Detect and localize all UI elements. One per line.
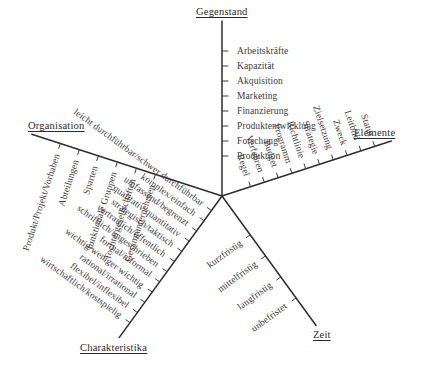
tick-elemente-7	[346, 151, 348, 156]
tick-elemente-6	[332, 155, 334, 160]
tick-elemente-2	[277, 173, 279, 178]
tick-charakteristika-0	[207, 208, 211, 211]
tick-elemente-5	[318, 160, 320, 165]
tick-zeit-2	[277, 277, 281, 280]
axis-item-gegenstand-4: Marketing	[237, 91, 277, 101]
axis-line-zeit	[222, 196, 316, 325]
tick-charakteristika-8	[148, 289, 152, 292]
tick-zeit-0	[246, 235, 250, 238]
axis-title-zeit: Zeit	[313, 329, 331, 340]
tick-organisation-2	[116, 162, 118, 167]
tick-organisation-5	[59, 143, 61, 148]
tick-elemente-3	[290, 169, 292, 174]
tick-charakteristika-1	[200, 218, 204, 221]
tick-charakteristika-10	[133, 310, 137, 313]
tick-organisation-4	[78, 150, 80, 155]
tick-charakteristika-7	[156, 279, 160, 282]
tick-charakteristika-4	[178, 248, 182, 251]
tick-zeit-3	[292, 298, 296, 301]
tick-elemente-4	[304, 164, 306, 169]
tick-elemente-1	[263, 177, 265, 182]
diagram-canvas: GegenstandOrganisationElementeZeitCharak…	[0, 0, 428, 369]
axis-item-gegenstand-3: Finanzierung	[237, 106, 288, 116]
tick-zeit-1	[261, 256, 265, 259]
axis-title-organisation: Organisation	[28, 120, 84, 131]
tick-organisation-1	[135, 168, 137, 173]
tick-charakteristika-2	[193, 228, 197, 231]
tick-charakteristika-6	[163, 269, 167, 272]
axis-item-gegenstand-6: Kapazität	[237, 61, 274, 71]
axis-item-gegenstand-7: Arbeitskräfte	[237, 46, 288, 56]
tick-charakteristika-5	[170, 259, 174, 262]
axis-title-charakteristika: Charakteristika	[80, 342, 147, 353]
tick-elemente-8	[359, 146, 361, 151]
tick-charakteristika-9	[141, 299, 145, 302]
tick-charakteristika-11	[126, 320, 130, 323]
tick-charakteristika-3	[185, 238, 189, 241]
tick-elemente-9	[373, 142, 375, 147]
tick-organisation-3	[97, 156, 99, 161]
axis-item-gegenstand-5: Akquisition	[237, 76, 283, 86]
axis-title-gegenstand: Gegenstand	[196, 6, 248, 17]
tick-elemente-0	[249, 182, 251, 187]
